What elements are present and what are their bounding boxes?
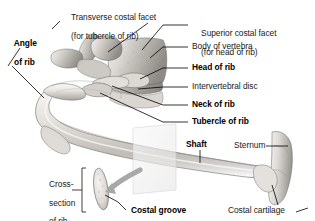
cross-section-bracket [82, 168, 86, 212]
label-transverse-costal-facet-line2: (for tubercle of rib) [71, 31, 138, 41]
leader-costal-groove-dash [118, 202, 126, 210]
label-tubercle-of-rib: Tubercle of rib [192, 117, 249, 127]
label-angle-of-rib-line2: of rib [14, 57, 35, 67]
cross-section-plane [133, 124, 176, 194]
label-cross-section-line1: Cross- [49, 179, 73, 189]
label-angle-of-rib: Angle of rib [5, 29, 37, 77]
label-costal-groove: Costal groove [131, 206, 186, 216]
anatomy-figure: Transverse costal facet (for tubercle of… [0, 0, 315, 221]
cutting-plane [133, 124, 176, 194]
label-head-of-rib: Head of rib [192, 63, 235, 73]
label-transverse-costal-facet-line1: Transverse costal facet [71, 12, 156, 22]
label-cross-section-line2: section [49, 198, 75, 208]
leader-costal-cartilage-dash [296, 208, 308, 212]
label-cross-section-of-rib: Cross- section of rib [40, 171, 75, 221]
label-costal-cartilage: Costal cartilage [228, 206, 285, 216]
label-cross-section-line3: of rib [49, 216, 67, 221]
sternum [269, 132, 293, 205]
label-intervertebral-disc: Intervertebral disc [192, 82, 258, 92]
label-superior-costal-facet-line1: Superior costal facet [201, 28, 276, 38]
label-shaft: Shaft [186, 140, 207, 150]
cross-section-inset [72, 167, 140, 212]
label-sternum: Sternum [234, 141, 265, 151]
label-body-of-vertebra: Body of vertebra [192, 42, 253, 52]
lamina [77, 59, 111, 78]
label-transverse-costal-facet: Transverse costal facet (for tubercle of… [62, 3, 156, 51]
label-angle-of-rib-line1: Angle [14, 38, 37, 48]
label-neck-of-rib: Neck of rib [192, 100, 235, 110]
leader-transverse-tick [52, 21, 60, 29]
